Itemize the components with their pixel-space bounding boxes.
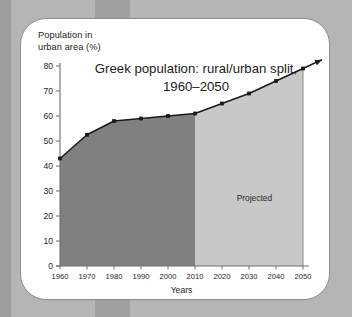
y-axis-ticks: 01020304050607080: [43, 61, 60, 271]
svg-text:2000: 2000: [160, 272, 177, 281]
page-background: Population in urban area (%) 01020304050…: [0, 0, 352, 317]
svg-text:10: 10: [43, 236, 53, 246]
chart-card: Population in urban area (%) 01020304050…: [20, 18, 330, 300]
population-area-chart: 01020304050607080 1960197019801990200020…: [21, 19, 330, 300]
svg-text:2040: 2040: [268, 272, 285, 281]
x-axis-ticks: 1960197019801990200020102020203020402050: [52, 266, 312, 281]
svg-text:20: 20: [43, 211, 53, 221]
svg-text:2020: 2020: [214, 272, 231, 281]
svg-text:60: 60: [43, 111, 53, 121]
svg-text:1970: 1970: [79, 272, 96, 281]
svg-text:40: 40: [43, 161, 53, 171]
svg-text:1980: 1980: [106, 272, 123, 281]
svg-text:2030: 2030: [241, 272, 258, 281]
svg-text:2050: 2050: [295, 272, 312, 281]
svg-text:30: 30: [43, 186, 53, 196]
svg-text:1960–2050: 1960–2050: [163, 79, 229, 94]
svg-text:Projected: Projected: [237, 193, 273, 203]
svg-text:0: 0: [48, 261, 53, 271]
page-left-band: [0, 0, 11, 317]
svg-text:2010: 2010: [187, 272, 204, 281]
chart-plot-area: 01020304050607080 1960197019801990200020…: [21, 19, 330, 300]
svg-text:80: 80: [43, 61, 53, 71]
svg-text:1990: 1990: [133, 272, 150, 281]
svg-text:1960: 1960: [52, 272, 69, 281]
svg-text:Years: Years: [171, 285, 193, 295]
chart-fill-regions: [60, 69, 303, 267]
svg-text:70: 70: [43, 86, 53, 96]
svg-text:50: 50: [43, 136, 53, 146]
svg-text:Greek population: rural/urban: Greek population: rural/urban split,: [95, 61, 297, 76]
